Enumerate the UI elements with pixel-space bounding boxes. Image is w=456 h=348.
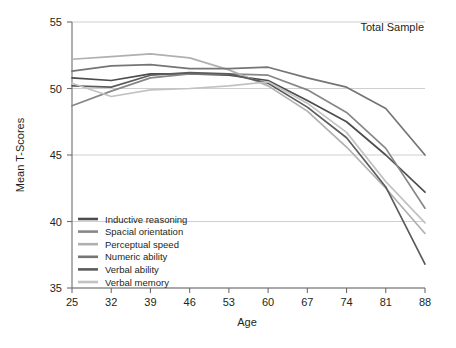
line-chart: 3540455055 25323946536067748188 Inductiv… <box>0 0 456 348</box>
x-tick-label-25: 25 <box>66 296 78 308</box>
y-tick-label-40: 40 <box>50 216 62 228</box>
total-sample-annotation: Total Sample <box>360 21 424 33</box>
y-tick-label-45: 45 <box>50 149 62 161</box>
legend-label-1: Spacial orientation <box>105 226 183 237</box>
x-tick-label-88: 88 <box>419 296 431 308</box>
x-tick-label-53: 53 <box>223 296 235 308</box>
y-tick-label-35: 35 <box>50 282 62 294</box>
x-tick-label-67: 67 <box>301 296 313 308</box>
y-tick-label-50: 50 <box>50 83 62 95</box>
x-axis-title: Age <box>237 316 257 328</box>
legend-label-0: Inductive reasoning <box>105 214 187 225</box>
x-tick-label-81: 81 <box>380 296 392 308</box>
legend-label-2: Perceptual speed <box>105 239 179 250</box>
chart-container: 3540455055 25323946536067748188 Inductiv… <box>0 0 456 348</box>
legend-label-3: Numeric ability <box>105 251 168 262</box>
y-axis-title: Mean T-Scores <box>14 117 26 192</box>
x-tick-label-39: 39 <box>144 296 156 308</box>
legend-label-5: Verbal memory <box>105 277 169 288</box>
y-tick-label-55: 55 <box>50 16 62 28</box>
x-tick-label-46: 46 <box>184 296 196 308</box>
x-tick-label-60: 60 <box>262 296 274 308</box>
x-tick-label-74: 74 <box>340 296 352 308</box>
legend-label-4: Verbal ability <box>105 264 159 275</box>
x-tick-label-32: 32 <box>105 296 117 308</box>
